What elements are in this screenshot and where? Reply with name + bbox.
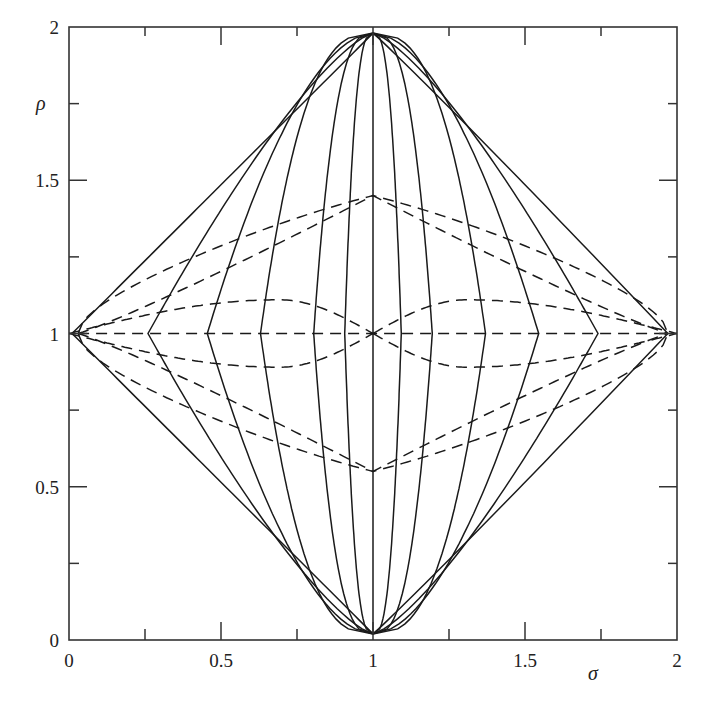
x-axis-label: σ (588, 662, 599, 684)
dashed-half-curve (69, 334, 373, 368)
y-tick-label: 0 (50, 630, 60, 651)
x-tick-label: 2 (672, 650, 682, 671)
x-tick-label: 1 (368, 650, 378, 671)
x-tick-label: 0.5 (209, 650, 233, 671)
y-axis-label: ρ (35, 92, 46, 115)
y-tick-label: 1.5 (35, 170, 59, 191)
y-tick-label: 2 (50, 17, 60, 38)
x-tick-label: 1.5 (513, 650, 537, 671)
dashed-half-curve (69, 300, 373, 334)
y-tick-label: 0.5 (35, 477, 59, 498)
dashed-half-curve (373, 300, 677, 334)
dashed-half-curve (373, 334, 677, 368)
chart-plot: 00.511.5200.511.52 ρ σ (0, 0, 701, 707)
y-tick-label: 1 (50, 324, 60, 345)
x-tick-label: 0 (64, 650, 74, 671)
chart-curves (69, 33, 677, 634)
axis-ticks: 00.511.5200.511.52 (35, 17, 682, 671)
